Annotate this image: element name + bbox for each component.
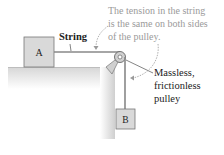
pulley-label-line-3: pulley bbox=[154, 93, 180, 104]
string-label: String bbox=[59, 31, 87, 42]
table-surface bbox=[8, 67, 115, 89]
tension-note-line-1: The tension in the string bbox=[108, 5, 205, 16]
tension-note-line-3: of the pulley. bbox=[108, 31, 160, 42]
tension-note-line-2: is the same on both sides bbox=[108, 18, 208, 29]
tension-arrow-left bbox=[96, 26, 108, 48]
pulley-label-line-1: Massless, bbox=[154, 67, 195, 78]
pulley-label-line-2: frictionless bbox=[154, 80, 201, 91]
block-a-label: A bbox=[35, 47, 43, 58]
block-b-label: B bbox=[122, 115, 128, 125]
table-edge bbox=[100, 67, 115, 139]
